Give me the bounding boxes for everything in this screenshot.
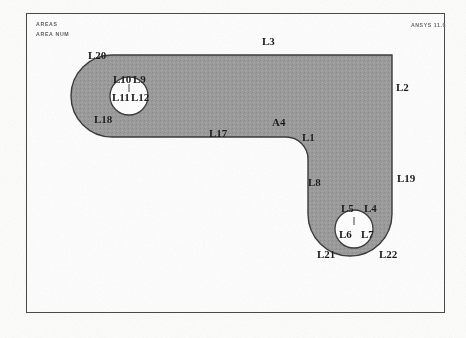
header-areas-label: AREAS bbox=[36, 20, 58, 27]
line-label-l6: L6 bbox=[339, 229, 352, 240]
line-label-l20: L20 bbox=[88, 50, 106, 61]
line-label-l10: L10 bbox=[113, 74, 131, 85]
ansys-plot-screenshot: AREAS AREA NUM ANSYS 11.0 bbox=[0, 0, 466, 338]
line-label-l9: L9 bbox=[133, 74, 146, 85]
line-label-l19: L19 bbox=[397, 173, 415, 184]
header-version-label: ANSYS 11.0 bbox=[411, 21, 446, 28]
line-label-l22: L22 bbox=[379, 249, 397, 260]
line-label-l4: L4 bbox=[364, 203, 377, 214]
line-label-l11: L11 bbox=[112, 92, 130, 103]
header-areanum-label: AREA NUM bbox=[36, 30, 69, 37]
line-label-l21: L21 bbox=[317, 249, 335, 260]
line-label-l8: L8 bbox=[308, 177, 321, 188]
line-label-a4: A4 bbox=[272, 117, 285, 128]
line-label-l7: L7 bbox=[361, 229, 374, 240]
line-label-l3: L3 bbox=[262, 36, 275, 47]
line-label-l12: L12 bbox=[131, 92, 149, 103]
line-label-l17: L17 bbox=[209, 128, 227, 139]
line-label-l2: L2 bbox=[396, 82, 409, 93]
line-label-l5: L5 bbox=[341, 203, 354, 214]
line-label-l18: L18 bbox=[94, 114, 112, 125]
line-label-l1: L1 bbox=[302, 132, 315, 143]
